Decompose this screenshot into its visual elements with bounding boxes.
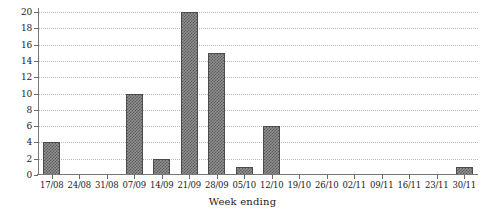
x-axis-title: Week ending — [0, 196, 485, 207]
x-tick-label: 02/11 — [343, 181, 367, 190]
gridline — [38, 126, 478, 127]
bar — [153, 159, 170, 175]
y-tick-label: 14 — [21, 56, 32, 65]
x-tick-label: 30/11 — [453, 181, 477, 190]
y-tick-label: 10 — [21, 89, 32, 98]
y-tick-mark — [34, 12, 38, 13]
x-tick-mark — [437, 175, 438, 179]
y-tick-mark — [34, 126, 38, 127]
x-tick-mark — [272, 175, 273, 179]
x-tick-label: 14/09 — [150, 181, 174, 190]
y-tick-label: 12 — [21, 73, 32, 82]
y-tick-mark — [34, 28, 38, 29]
x-tick-mark — [327, 175, 328, 179]
y-tick-label: 6 — [26, 122, 32, 131]
x-tick-mark — [409, 175, 410, 179]
y-tick-mark — [34, 94, 38, 95]
x-tick-label: 12/10 — [260, 181, 284, 190]
bar — [181, 12, 198, 175]
gridline — [38, 77, 478, 78]
x-tick-mark — [299, 175, 300, 179]
x-tick-label: 09/11 — [370, 181, 394, 190]
bar — [263, 126, 280, 175]
x-tick-mark — [244, 175, 245, 179]
gridline — [38, 61, 478, 62]
x-tick-mark — [162, 175, 163, 179]
x-tick-mark — [217, 175, 218, 179]
bar — [208, 53, 225, 175]
x-tick-mark — [382, 175, 383, 179]
y-tick-mark — [34, 77, 38, 78]
x-tick-label: 28/09 — [205, 181, 229, 190]
x-tick-label: 17/08 — [40, 181, 64, 190]
x-tick-mark — [79, 175, 80, 179]
plot-frame: 02468101214161820 17/0824/0831/0807/0914… — [38, 12, 478, 175]
y-tick-label: 4 — [26, 138, 32, 147]
x-tick-label: 05/10 — [233, 181, 257, 190]
x-tick-label: 07/09 — [123, 181, 147, 190]
y-tick-label: 16 — [21, 40, 32, 49]
x-tick-mark — [189, 175, 190, 179]
gridline — [38, 28, 478, 29]
bar — [126, 94, 143, 176]
y-tick-label: 0 — [26, 171, 32, 180]
y-tick-label: 20 — [21, 8, 32, 17]
x-tick-mark — [134, 175, 135, 179]
gridline — [38, 94, 478, 95]
x-tick-label: 31/08 — [95, 181, 119, 190]
x-tick-label: 26/10 — [315, 181, 339, 190]
gridline — [38, 159, 478, 160]
x-tick-label: 19/10 — [288, 181, 312, 190]
plot-area: 02468101214161820 17/0824/0831/0807/0914… — [38, 12, 478, 175]
gridline — [38, 110, 478, 111]
y-tick-mark — [34, 45, 38, 46]
y-tick-label: 18 — [21, 24, 32, 33]
gridline — [38, 45, 478, 46]
y-tick-label: 8 — [26, 105, 32, 114]
x-tick-mark — [354, 175, 355, 179]
y-tick-label: 2 — [26, 154, 32, 163]
gridline — [38, 12, 478, 13]
y-tick-mark — [34, 110, 38, 111]
y-tick-mark — [34, 175, 38, 176]
y-axis-line — [38, 8, 39, 175]
x-axis-line — [37, 174, 478, 175]
x-tick-mark — [464, 175, 465, 179]
y-tick-mark — [34, 159, 38, 160]
x-tick-label: 16/11 — [398, 181, 422, 190]
x-tick-label: 21/09 — [178, 181, 202, 190]
y-tick-mark — [34, 142, 38, 143]
x-tick-label: 23/11 — [425, 181, 449, 190]
y-tick-mark — [34, 61, 38, 62]
x-tick-mark — [52, 175, 53, 179]
x-tick-mark — [107, 175, 108, 179]
bar-chart: 02468101214161820 17/0824/0831/0807/0914… — [0, 0, 485, 219]
x-tick-label: 24/08 — [68, 181, 92, 190]
gridline — [38, 142, 478, 143]
bar — [43, 142, 60, 175]
